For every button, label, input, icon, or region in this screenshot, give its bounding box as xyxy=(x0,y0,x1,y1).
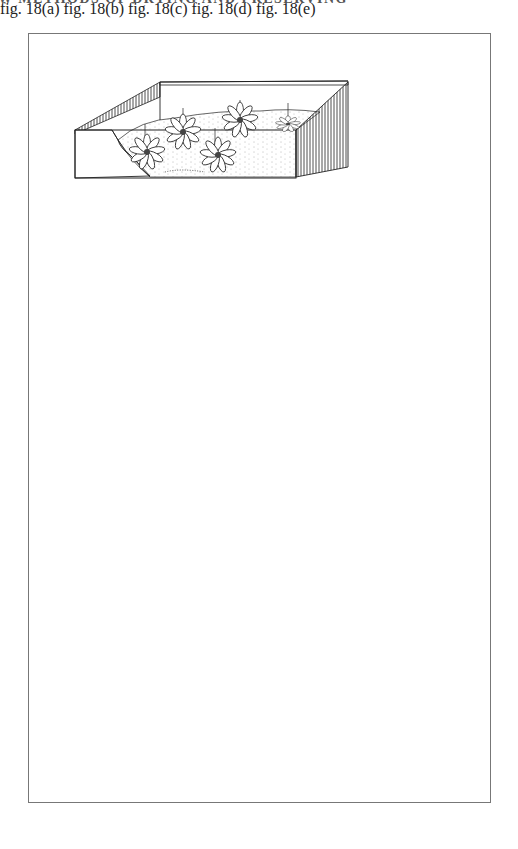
figure-a-drawing xyxy=(75,81,348,178)
illustrations xyxy=(0,0,518,849)
